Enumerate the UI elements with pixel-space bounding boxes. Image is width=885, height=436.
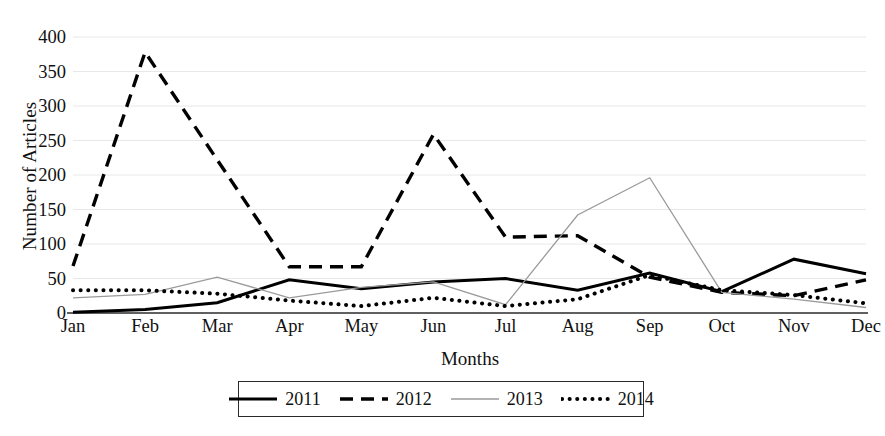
x-tick-label: Nov [759,316,829,337]
x-tick-label: Oct [687,316,757,337]
gridlines [73,37,866,279]
legend-swatch-icon [228,392,278,406]
x-axis-title: Months [70,348,870,370]
legend-label: 2013 [507,390,543,408]
chart-legend: 2011201220132014 [238,381,644,417]
series-line-2011 [73,259,866,312]
legend-entry-2011[interactable]: 2011 [219,390,329,408]
legend-entry-2013[interactable]: 2013 [441,390,552,408]
x-tick-label: Jun [398,316,468,337]
x-tick-label: Apr [254,316,324,337]
x-tick-label: Jul [471,316,541,337]
x-tick-label: Sep [615,316,685,337]
x-tick-label: Jan [38,316,108,337]
legend-label: 2012 [396,390,432,408]
legend-entry-2014[interactable]: 2014 [552,390,663,408]
series-line-2013 [73,178,866,308]
data-series-group [73,52,866,312]
legend-swatch-icon [339,392,389,406]
x-tick-label: May [326,316,396,337]
x-tick-label: Dec [831,316,885,337]
legend-label: 2014 [618,390,654,408]
legend-label: 2011 [285,390,320,408]
series-line-2012 [73,52,866,296]
legend-swatch-icon [561,392,611,406]
legend-entry-2012[interactable]: 2012 [330,390,441,408]
x-tick-label: Mar [182,316,252,337]
x-tick-label: Feb [110,316,180,337]
x-tick-label: Aug [543,316,613,337]
legend-swatch-icon [450,392,500,406]
